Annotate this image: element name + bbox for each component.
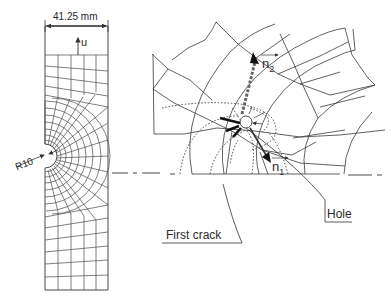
specimen-mesh <box>45 26 110 290</box>
n1-label: n1 <box>272 160 284 177</box>
hole-circle <box>240 116 252 128</box>
vector-n2 <box>242 52 259 114</box>
n2-subscript: 2 <box>269 64 274 74</box>
dimension-label: 41.25 mm <box>53 12 97 22</box>
fe-mesh-figure <box>0 0 391 301</box>
displacement-label: u <box>81 37 87 48</box>
n1-subscript: 1 <box>279 167 284 177</box>
n2-label: n2 <box>262 57 274 74</box>
stress-contours <box>162 103 288 174</box>
zoomed-mesh <box>152 22 385 174</box>
hole-label: Hole <box>327 208 352 220</box>
crack-label: First crack <box>166 229 221 241</box>
